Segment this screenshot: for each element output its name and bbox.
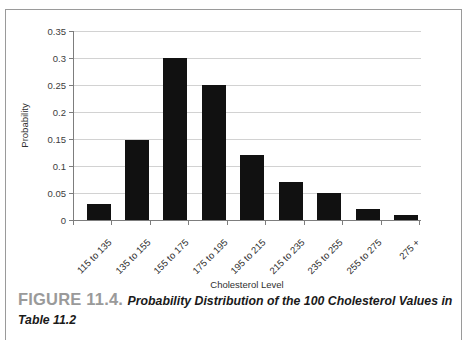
bar (87, 204, 111, 220)
y-tick-mark (69, 112, 73, 113)
x-tick-mark (188, 221, 189, 225)
bar (356, 209, 380, 220)
y-tick-mark (69, 193, 73, 194)
bar (202, 85, 226, 220)
y-tick-label: 0.15 (48, 135, 67, 145)
x-tick-mark (304, 221, 305, 225)
x-tick-mark (265, 221, 266, 225)
gridline (73, 58, 421, 59)
figure-number-label: FIGURE 11.4. (18, 290, 123, 308)
x-axis-title: Cholesterol Level (73, 279, 421, 290)
bar (279, 182, 303, 220)
y-tick-label: 0.2 (53, 108, 66, 118)
y-axis-title: Probability (19, 86, 30, 166)
y-tick-mark (69, 139, 73, 140)
plot-area (73, 31, 421, 220)
y-tick-mark (69, 85, 73, 86)
x-tick-mark (227, 221, 228, 225)
x-tick-mark (419, 221, 420, 225)
y-tick-label: 0.3 (53, 54, 66, 64)
gridline (73, 31, 421, 32)
y-tick-label: 0 (61, 216, 66, 226)
bar (125, 140, 149, 220)
y-tick-label: 0.35 (48, 27, 67, 37)
y-tick-mark (69, 166, 73, 167)
y-axis-line (73, 31, 74, 221)
x-tick-mark (111, 221, 112, 225)
x-tick-mark (150, 221, 151, 225)
y-tick-mark (69, 58, 73, 59)
y-tick-label: 0.05 (48, 189, 67, 199)
x-axis-line (73, 220, 421, 221)
y-tick-label: 0.1 (53, 162, 66, 172)
figure-caption: FIGURE 11.4. Probability Distribution of… (18, 291, 454, 329)
bar (163, 58, 187, 220)
gridline (73, 85, 421, 86)
gridline (73, 112, 421, 113)
x-tick-mark (73, 221, 74, 225)
bar (240, 155, 264, 220)
x-tick-mark (342, 221, 343, 225)
figure-page: Probability (0, 0, 469, 342)
bar (317, 193, 341, 220)
y-tick-mark (69, 31, 73, 32)
y-tick-label: 0.25 (48, 81, 67, 91)
x-tick-mark (381, 221, 382, 225)
